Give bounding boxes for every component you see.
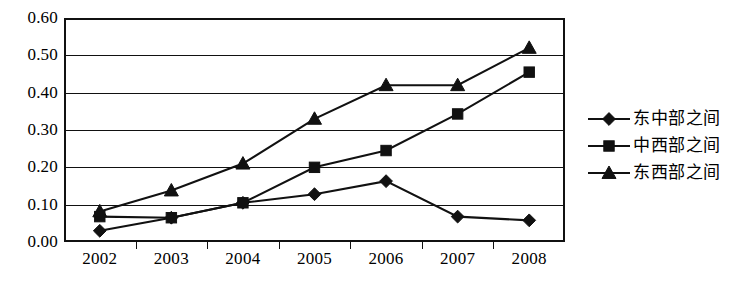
series-layer xyxy=(64,18,565,242)
chart-legend: 东中部之间中西部之间东西部之间 xyxy=(588,105,721,186)
x-axis-tick-label: 2003 xyxy=(154,249,189,269)
triangle-marker xyxy=(602,166,616,178)
x-axis-tick-mark xyxy=(422,242,423,249)
legend-marker-sample xyxy=(588,136,630,156)
y-axis-tick-label: 0.40 xyxy=(0,84,58,101)
legend-marker-sample xyxy=(588,163,630,183)
legend-item[interactable]: 东西部之间 xyxy=(588,159,721,186)
y-axis-tick-label: 0.50 xyxy=(0,46,58,63)
legend-item-label: 东中部之间 xyxy=(630,109,721,129)
y-axis-tick-label: 0.20 xyxy=(0,158,58,175)
x-axis-tick-label: 2004 xyxy=(225,249,260,269)
y-axis-tick-label: 0.60 xyxy=(0,9,58,26)
square-marker xyxy=(604,140,614,150)
x-axis-tick-label: 2005 xyxy=(297,249,332,269)
legend-item[interactable]: 中西部之间 xyxy=(588,132,721,159)
diamond-marker xyxy=(451,210,464,223)
square-marker xyxy=(452,109,462,119)
series-line xyxy=(100,48,529,212)
legend-square-icon xyxy=(598,135,620,157)
x-axis-tick-label: 2002 xyxy=(82,249,117,269)
triangle-marker xyxy=(522,41,536,53)
square-marker xyxy=(238,198,248,208)
triangle-marker xyxy=(236,157,250,169)
legend-triangle-icon xyxy=(598,162,620,184)
y-axis-tick-label: 0.00 xyxy=(0,233,58,250)
legend-item[interactable]: 东中部之间 xyxy=(588,105,721,132)
square-marker xyxy=(381,145,391,155)
x-axis-tick-mark xyxy=(350,242,351,249)
triangle-marker xyxy=(308,112,322,124)
diamond-marker xyxy=(308,188,321,201)
x-axis-tick-label: 2008 xyxy=(512,249,547,269)
legend-marker-sample xyxy=(588,109,630,129)
diamond-marker xyxy=(93,224,106,237)
legend-item-label: 中西部之间 xyxy=(630,136,721,156)
x-axis-tick-label: 2007 xyxy=(440,249,475,269)
x-axis-tick-mark xyxy=(207,242,208,249)
x-axis-tick-label: 2006 xyxy=(368,249,403,269)
legend-item-label: 东西部之间 xyxy=(630,163,721,183)
y-axis-tick-label: 0.30 xyxy=(0,121,58,138)
x-axis-tick-mark xyxy=(136,242,137,249)
diamond-marker xyxy=(603,112,616,125)
diamond-marker xyxy=(380,175,393,188)
square-marker xyxy=(524,67,534,77)
square-marker xyxy=(309,162,319,172)
y-axis-tick-label: 0.10 xyxy=(0,196,58,213)
x-axis-tick-mark xyxy=(279,242,280,249)
legend-diamond-icon xyxy=(598,108,620,130)
square-marker xyxy=(166,213,176,223)
line-chart: 东中部之间中西部之间东西部之间 0.000.100.200.300.400.50… xyxy=(0,0,741,282)
x-axis-tick-mark xyxy=(493,242,494,249)
diamond-marker xyxy=(523,214,536,227)
